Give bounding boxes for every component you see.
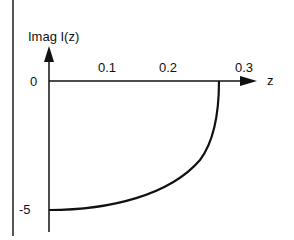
- x-axis-arrow-icon: [240, 76, 257, 86]
- x-tick-0-3: 0.3: [235, 61, 253, 74]
- x-axis-label: z: [267, 74, 274, 87]
- y-axis-label: Imag I(z): [28, 30, 79, 43]
- y-tick-0: 0: [30, 75, 37, 88]
- x-tick-0-2: 0.2: [159, 61, 177, 74]
- y-tick-neg5: -5: [19, 203, 31, 216]
- data-curve: [49, 81, 219, 210]
- x-tick-0-1: 0.1: [98, 61, 116, 74]
- y-axis-arrow-icon: [44, 46, 54, 62]
